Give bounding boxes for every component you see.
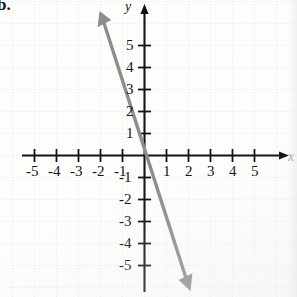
x-tick-label: 4 [229,164,237,179]
x-tick-label: 3 [207,164,215,179]
x-tick-label: -4 [48,164,61,179]
y-tick-label: 1 [126,126,134,141]
x-tick-label: 5 [251,164,259,179]
graph-figure: b. y x -5 -4 -3 -2 -1 1 2 3 4 5 5 4 3 2 … [0,0,297,297]
y-tick-label: 5 [126,38,134,53]
y-axis-label: y [125,0,131,14]
y-tick-label: 4 [126,60,134,75]
x-tick-label: 2 [185,164,193,179]
plotted-line [0,0,297,297]
y-tick-label: 2 [126,104,134,119]
problem-label: b. [0,0,11,13]
y-tick-label: -3 [119,214,132,229]
x-tick-label: 1 [163,164,171,179]
x-tick-label: -5 [26,164,39,179]
x-axis-label: x [288,150,294,164]
line-segment [104,23,186,278]
x-tick-label: -3 [70,164,83,179]
y-tick-label: -4 [119,236,132,251]
y-tick-label: 3 [126,82,134,97]
y-tick-label: -1 [119,170,132,185]
y-tick-label: -2 [119,192,132,207]
y-tick-label: -5 [119,258,132,273]
x-tick-label: -2 [92,164,105,179]
